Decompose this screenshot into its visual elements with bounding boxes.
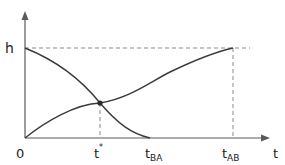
y-axis-label-h: h: [5, 40, 14, 56]
t-ba-label: tBA: [145, 146, 163, 163]
x-axis-arrow-icon: [261, 135, 270, 142]
chart: h 0 t t* tBA tAB: [0, 0, 285, 165]
origin-label: 0: [16, 146, 24, 161]
t-star-label: t*: [94, 143, 103, 161]
curve-rising: [25, 48, 233, 138]
x-axis-label-t: t: [273, 146, 278, 161]
y-axis-arrow-icon: [22, 11, 29, 20]
t-ab-label: tAB: [222, 146, 239, 163]
intersection-point: [97, 100, 102, 105]
